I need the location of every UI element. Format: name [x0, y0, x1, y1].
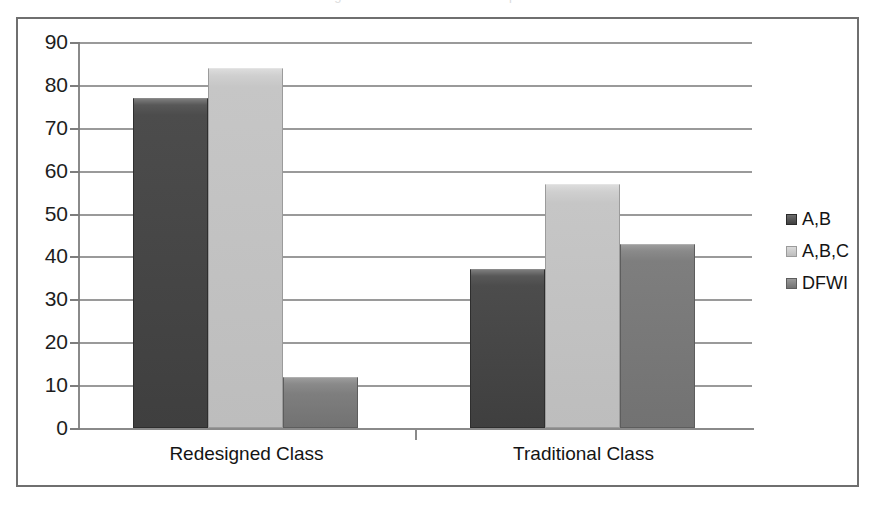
y-tick-90 [70, 42, 80, 44]
bar-ab-redesigned[interactable] [133, 98, 208, 428]
y-tick-30 [70, 299, 80, 301]
chart-figure: Figure 1. Grade distribution comparison … [0, 0, 875, 510]
bar-abc-redesigned[interactable] [208, 68, 283, 428]
y-tick-0 [70, 428, 80, 430]
y-tick-20 [70, 342, 80, 344]
legend-label: A,B,C [802, 242, 849, 260]
cut-off-caption-text: Figure 1. Grade distribution comparison [0, 0, 875, 12]
y-axis-label-60: 60 [16, 160, 68, 181]
y-axis-label-70: 70 [16, 117, 68, 138]
legend-item-ab[interactable]: A,B [786, 203, 858, 235]
bar-dfwi-traditional[interactable] [620, 244, 695, 428]
chart-legend: A,BA,B,CDFWI [786, 203, 858, 299]
y-axis-label-40: 40 [16, 245, 68, 266]
legend-item-abc[interactable]: A,B,C [786, 235, 858, 267]
legend-swatch-icon [786, 246, 797, 257]
y-tick-60 [70, 171, 80, 173]
y-axis-label-10: 10 [16, 374, 68, 395]
plot-area [78, 42, 752, 428]
bar-ab-traditional[interactable] [470, 269, 545, 428]
y-tick-10 [70, 385, 80, 387]
y-axis-label-80: 80 [16, 74, 68, 95]
y-axis-label-20: 20 [16, 331, 68, 352]
y-axis-label-90: 90 [16, 31, 68, 52]
legend-label: A,B [802, 210, 831, 228]
y-axis-label-0: 0 [16, 417, 68, 438]
bar-abc-traditional[interactable] [545, 184, 620, 428]
bar-dfwi-redesigned[interactable] [283, 377, 358, 428]
y-tick-50 [70, 214, 80, 216]
y-tick-80 [70, 85, 80, 87]
x-axis-category-separator [415, 428, 417, 440]
legend-swatch-icon [786, 214, 797, 225]
cut-off-caption-label: Figure 1. Grade distribution comparison [323, 0, 551, 3]
x-axis-label-redesigned: Redesigned Class [78, 443, 415, 466]
gridline-80 [78, 85, 752, 87]
legend-label: DFWI [802, 274, 848, 292]
y-tick-40 [70, 256, 80, 258]
y-axis-label-30: 30 [16, 288, 68, 309]
y-axis-tick-labels: 0102030405060708090 [12, 0, 68, 470]
gridline-90 [78, 42, 752, 44]
x-axis-label-traditional: Traditional Class [415, 443, 752, 466]
y-axis-label-50: 50 [16, 203, 68, 224]
y-tick-70 [70, 128, 80, 130]
legend-item-dfwi[interactable]: DFWI [786, 267, 858, 299]
legend-swatch-icon [786, 278, 797, 289]
